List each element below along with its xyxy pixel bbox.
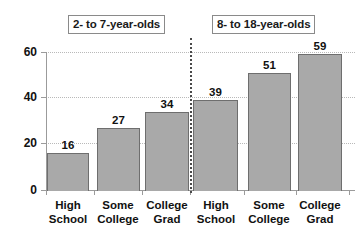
y-tick-label-60: 60 <box>7 46 37 58</box>
bar-chart: 60 40 20 0 16 27 34 39 51 59 High School <box>0 0 357 237</box>
x-label-line-2: School <box>194 212 238 226</box>
bar-g1-high-school <box>47 153 89 191</box>
x-label-line-2: College <box>93 212 143 226</box>
x-label-line-1: High <box>47 198 89 212</box>
group-title-right: 8- to 18-year-olds <box>212 15 315 34</box>
x-label-line-2: College <box>244 212 294 226</box>
y-tick-label-40: 40 <box>7 91 37 103</box>
x-label-line-2: School <box>47 212 89 226</box>
x-label-line-1: Some <box>244 198 294 212</box>
bar-g1-college-grad <box>145 112 189 191</box>
x-tick-mark-2 <box>142 190 143 195</box>
x-label-line-1: College <box>294 198 346 212</box>
x-label-g1-high-school: High School <box>47 198 89 226</box>
x-tick-mark-1 <box>94 190 95 195</box>
x-label-g2-some-college: Some College <box>244 198 294 226</box>
x-label-g2-high-school: High School <box>194 198 238 226</box>
x-label-line-2: Grad <box>141 212 193 226</box>
group-divider-line <box>190 38 192 193</box>
bar-g2-college-grad <box>298 54 342 191</box>
y-tick-label-20: 20 <box>7 137 37 149</box>
x-label-line-1: College <box>141 198 193 212</box>
y-tick-mark-60 <box>41 52 47 53</box>
bar-g1-some-college <box>97 128 140 191</box>
plot-area: 60 40 20 0 16 27 34 39 51 59 High School <box>0 0 357 237</box>
bar-g2-high-school <box>193 100 238 191</box>
bar-value-g2-some-college: 51 <box>248 59 291 71</box>
x-label-g1-college-grad: College Grad <box>141 198 193 226</box>
x-label-line-1: Some <box>93 198 143 212</box>
x-label-line-2: Grad <box>294 212 346 226</box>
x-tick-mark-4 <box>244 190 245 195</box>
bar-value-g2-high-school: 39 <box>193 86 238 98</box>
x-label-g1-some-college: Some College <box>93 198 143 226</box>
x-label-g2-college-grad: College Grad <box>294 198 346 226</box>
bar-value-g1-college-grad: 34 <box>145 98 189 110</box>
group-title-left: 2- to 7-year-olds <box>68 15 165 34</box>
bar-g2-some-college <box>248 73 291 191</box>
x-tick-mark-5 <box>296 190 297 195</box>
y-tick-label-0: 0 <box>7 184 37 196</box>
gridline-60 <box>46 52 355 53</box>
bar-value-g2-college-grad: 59 <box>298 40 342 52</box>
x-label-line-1: High <box>194 198 238 212</box>
bar-value-g1-some-college: 27 <box>97 114 140 126</box>
bar-value-g1-high-school: 16 <box>47 139 89 151</box>
y-tick-mark-40 <box>41 97 47 98</box>
x-tick-mark-6 <box>349 190 350 195</box>
